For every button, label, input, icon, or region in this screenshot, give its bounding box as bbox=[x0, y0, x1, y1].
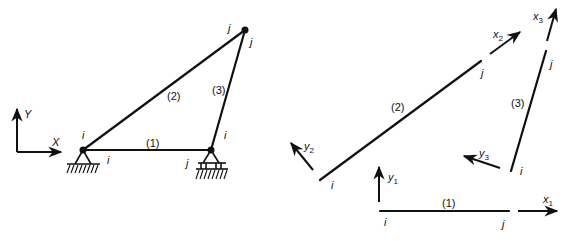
member-2-j-label: j bbox=[479, 67, 484, 79]
local-y1-label: y1 bbox=[387, 171, 399, 186]
member-3-i-label: i bbox=[520, 165, 523, 177]
member-1-exploded-label: (1) bbox=[442, 197, 455, 209]
local-y2-label: y2 bbox=[303, 140, 315, 155]
node-label-left-member2-i: i bbox=[82, 129, 85, 141]
member-3-line bbox=[511, 51, 546, 171]
member-1-exploded: (1) i j x1 y1 bbox=[379, 167, 557, 230]
member-3-j-label: j bbox=[548, 58, 553, 70]
node-label-top-member3-j: j bbox=[248, 36, 253, 48]
member-3-exploded: (3) i j x3 y3 bbox=[464, 9, 556, 177]
node-top-joint bbox=[242, 27, 249, 34]
roller-support bbox=[196, 150, 228, 179]
member-2-label: (2) bbox=[167, 90, 180, 102]
local-x2-label: x2 bbox=[492, 28, 504, 43]
member-2-i-label: i bbox=[331, 179, 334, 191]
global-axes: Y X bbox=[17, 108, 61, 152]
member-1-label: (1) bbox=[146, 137, 159, 149]
member-3-exploded-label: (3) bbox=[511, 97, 524, 109]
global-y-label: Y bbox=[24, 108, 32, 120]
member-3-label: (3) bbox=[212, 84, 225, 96]
node-label-right-member3-i: i bbox=[224, 129, 227, 141]
node-label-top-member2-j: j bbox=[226, 22, 231, 34]
node-label-left-member1-i: i bbox=[107, 154, 110, 166]
node-label-right-member1-j: j bbox=[184, 157, 189, 169]
truss-diagram: Y X (1) (2) (3) i i j i j j bbox=[0, 0, 567, 241]
member-2-line bbox=[320, 61, 481, 180]
ground-hatch bbox=[67, 165, 98, 173]
ground-hatch bbox=[196, 170, 227, 179]
member-1-j-label: j bbox=[500, 218, 505, 230]
local-x3-label: x3 bbox=[532, 10, 544, 25]
local-y3-label: y3 bbox=[478, 147, 490, 162]
right-panel: (2) i j x2 y2 (3) i j x3 y3 (1) i j x1 y… bbox=[291, 9, 557, 230]
global-x-label: X bbox=[51, 136, 60, 148]
local-x3-axis-arrow bbox=[547, 9, 556, 41]
local-x1-label: x1 bbox=[542, 193, 554, 208]
member-1-i-label: i bbox=[384, 216, 387, 228]
left-panel: Y X (1) (2) (3) i i j i j j bbox=[17, 22, 253, 179]
member-2-exploded-label: (2) bbox=[391, 101, 404, 113]
member-2-exploded: (2) i j x2 y2 bbox=[291, 28, 520, 191]
